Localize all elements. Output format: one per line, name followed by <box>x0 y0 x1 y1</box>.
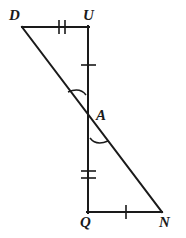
vertex-label-U: U <box>83 8 94 23</box>
vertex-label-Q: Q <box>80 215 91 230</box>
vertex-label-N: N <box>159 215 170 230</box>
geometry-diagram <box>0 0 186 238</box>
vertex-label-A: A <box>96 108 106 123</box>
angle-arc-NAQ <box>90 138 108 143</box>
segment-DN <box>22 27 162 212</box>
vertex-label-D: D <box>9 8 20 23</box>
geometry-figure: D U A Q N <box>0 0 186 238</box>
